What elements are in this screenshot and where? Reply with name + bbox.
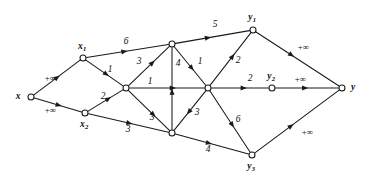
- arrow-head-x1-a: [102, 71, 109, 77]
- arrow-head-b-y1: [204, 36, 211, 41]
- arrow-head-x2-a: [104, 97, 111, 102]
- node-b[interactable]: [169, 41, 175, 47]
- arrow-head-y2-y: [302, 86, 308, 91]
- edge-y3-y: [255, 90, 339, 153]
- node-x2[interactable]: [82, 110, 88, 116]
- edge-x-x2: [34, 98, 81, 112]
- edge-c-y2: [212, 86, 269, 91]
- edge-x2-d: [89, 114, 169, 132]
- flow-network-canvas: [0, 0, 368, 187]
- node-d[interactable]: [169, 130, 175, 136]
- edge-a-c: [130, 86, 205, 91]
- arrow-head-a-c: [170, 86, 176, 91]
- edge-a-b: [129, 46, 170, 85]
- arrow-head-c-y1: [229, 54, 235, 60]
- node-c[interactable]: [205, 85, 211, 91]
- arrow-head-d-y3: [205, 140, 212, 145]
- node-x[interactable]: [28, 94, 34, 100]
- arrow-head-x-x2: [55, 102, 62, 107]
- arrow-head-x-x1: [53, 75, 59, 81]
- edge-line-c-y1: [210, 33, 251, 85]
- node-y3[interactable]: [249, 152, 255, 158]
- edge-x1-b: [87, 45, 169, 58]
- edge-line-b-y1: [176, 31, 250, 44]
- arrow-head-x2-d: [126, 120, 133, 125]
- edge-line-a-b: [129, 46, 170, 85]
- node-x1[interactable]: [80, 55, 86, 61]
- node-y2[interactable]: [269, 85, 275, 91]
- arrow-head-x1-b: [121, 49, 128, 54]
- node-layer: [28, 27, 345, 158]
- node-a[interactable]: [123, 85, 129, 91]
- arrow-head-c-y2: [241, 86, 247, 91]
- arrow-head-y1-y: [288, 51, 295, 56]
- edge-c-d: [174, 91, 206, 130]
- edge-d-y3: [175, 134, 248, 154]
- node-y[interactable]: [339, 85, 345, 91]
- node-y1[interactable]: [250, 27, 256, 33]
- flow-network-figure: +∞+∞612331341352264+∞+∞+∞xx1x2y1y2y3y: [0, 0, 368, 187]
- edge-b-y1: [176, 31, 250, 44]
- edge-layer: [34, 31, 339, 154]
- edge-c-y3: [210, 91, 250, 152]
- edge-line-x2-a: [88, 90, 123, 111]
- edge-y1-y: [256, 32, 339, 86]
- edge-x1-a: [86, 60, 123, 86]
- edge-y2-y: [276, 86, 339, 91]
- edge-line-y1-y: [256, 32, 339, 86]
- edge-c-y1: [210, 33, 251, 85]
- edge-line-c-y3: [210, 91, 250, 152]
- edge-x-x1: [34, 60, 80, 95]
- arrow-head-c-y3: [229, 121, 234, 128]
- edge-b-c: [174, 47, 205, 85]
- arrow-head-y3-y: [287, 124, 293, 130]
- edge-x2-a: [88, 90, 123, 111]
- edge-line-y3-y: [255, 90, 339, 153]
